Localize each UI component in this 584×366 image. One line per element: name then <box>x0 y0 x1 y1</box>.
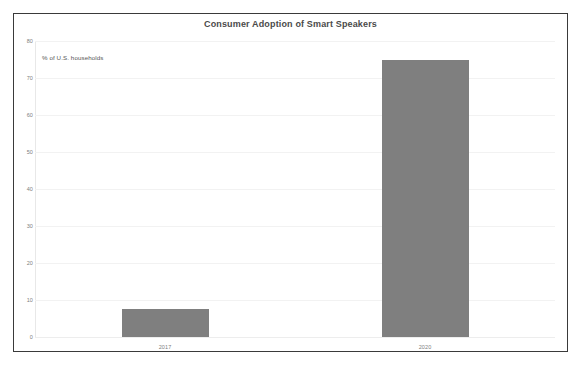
y-axis-tick-label: 10 <box>17 297 33 303</box>
gridline <box>35 337 555 338</box>
y-axis-tick-label: 80 <box>17 38 33 44</box>
chart-frame: Consumer Adoption of Smart Speakers % of… <box>13 13 568 352</box>
y-axis-tick-label: 0 <box>17 334 33 340</box>
x-axis-tick-label: 2020 <box>295 344 555 350</box>
y-axis-tick-label: 30 <box>17 223 33 229</box>
y-axis-tick-label: 60 <box>17 112 33 118</box>
x-axis-tick-labels: 20172020 <box>35 41 555 337</box>
y-axis-tick-labels: 01020304050607080 <box>14 41 33 337</box>
y-axis-tick-label: 40 <box>17 186 33 192</box>
y-axis-tick-label: 20 <box>17 260 33 266</box>
x-axis-tick-label: 2017 <box>35 344 295 350</box>
y-axis-tick-label: 50 <box>17 149 33 155</box>
chart-title: Consumer Adoption of Smart Speakers <box>14 19 567 29</box>
y-axis-tick-label: 70 <box>17 75 33 81</box>
